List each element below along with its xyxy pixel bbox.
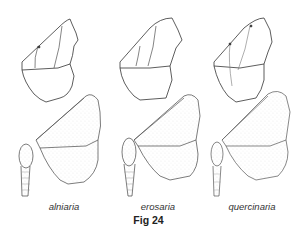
moth-wing-comparison-figure: alniaria erosaria quercinaria Fig 24 (0, 0, 297, 240)
figure-caption: Fig 24 (0, 214, 297, 226)
alniaria-detached-wings (22, 19, 78, 102)
quercinaria-detached-wings (214, 18, 272, 102)
specimen-label-quercinaria: quercinaria (212, 201, 292, 212)
erosaria-moth (122, 95, 200, 196)
specimen-label-alniaria: alniaria (24, 201, 104, 212)
alniaria-moth (19, 95, 101, 196)
specimen-label-erosaria: erosaria (118, 201, 198, 212)
quercinaria-moth (211, 91, 290, 196)
erosaria-detached-wings (120, 18, 182, 100)
